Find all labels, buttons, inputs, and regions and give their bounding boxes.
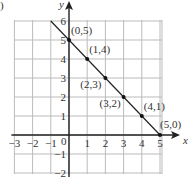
- y-tick-label: 3: [61, 72, 67, 84]
- y-tick-label: 4: [61, 53, 67, 65]
- point-label: (0,5): [71, 24, 92, 37]
- x-tick-label: 3: [121, 137, 127, 149]
- grid: [14, 20, 162, 174]
- origin-label: 0: [61, 135, 67, 147]
- x-tick-label: 1: [84, 137, 90, 149]
- data-points: (0,5)(1,4)(2,3)(3,2)(4,1)(5,0): [67, 24, 181, 137]
- x-axis-label: x: [182, 134, 188, 146]
- data-point: [67, 38, 71, 42]
- x-tick-label: 4: [139, 137, 145, 149]
- figure-label: ): [0, 0, 4, 12]
- x-tick-label: −2: [27, 137, 39, 149]
- point-label: (2,3): [80, 78, 101, 91]
- data-point: [140, 114, 144, 118]
- point-label: (4,1): [144, 100, 165, 113]
- data-point: [85, 57, 89, 61]
- y-tick-label: 1: [61, 110, 67, 122]
- y-axis-label: y: [58, 0, 64, 10]
- data-point: [158, 133, 162, 137]
- x-tick-label: 5: [157, 137, 163, 149]
- point-label: (3,2): [100, 97, 121, 110]
- y-tick-label: −1: [54, 148, 66, 160]
- x-tick-label: 2: [103, 137, 109, 149]
- data-point: [103, 76, 107, 80]
- point-label: (5,0): [160, 118, 181, 131]
- point-label: (1,4): [89, 43, 110, 56]
- y-tick-label: 2: [61, 91, 67, 103]
- coordinate-plot: ) xy0 −3−2−112345654321−1−2 (0,5)(1,4)(2…: [0, 0, 191, 187]
- data-point: [122, 95, 126, 99]
- y-tick-label: −2: [54, 167, 66, 179]
- y-tick-label: 6: [61, 15, 67, 27]
- x-tick-label: −3: [9, 137, 21, 149]
